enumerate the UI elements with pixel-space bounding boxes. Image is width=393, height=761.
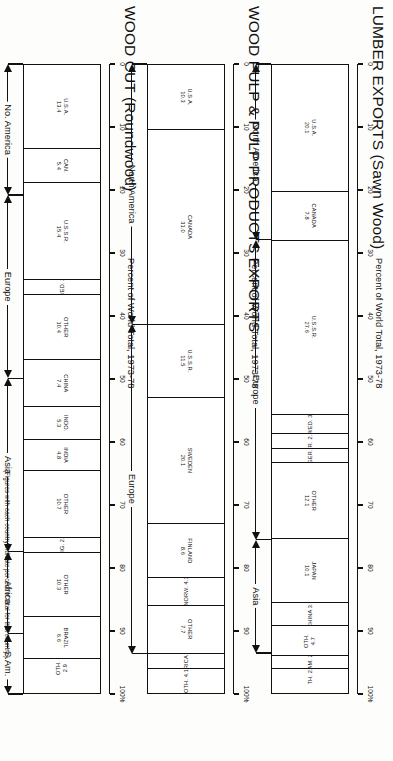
bar-segment: OTHER10.7 — [24, 471, 100, 538]
axis-tick — [110, 189, 115, 190]
bar-segment-label: OTHER10.3 — [55, 574, 68, 594]
region-connector — [8, 693, 23, 694]
bar-segment-label: CAN.5.4 — [55, 159, 68, 173]
axis-tick — [110, 126, 115, 127]
region-span: No. America — [0, 64, 21, 195]
axis-tick — [110, 504, 115, 505]
region-connector — [8, 378, 23, 379]
arrow-left-icon — [4, 64, 12, 72]
axis-tick-label: 20 — [119, 174, 126, 206]
region-label: Europe — [3, 269, 13, 305]
region-connector — [8, 194, 23, 195]
arrow-left-icon — [4, 195, 12, 203]
axis-tick-label: 0 — [119, 48, 126, 80]
bar-segment: CAN.5.4 — [24, 149, 100, 183]
chart-title: WOOD CUT (Roundwood) — [121, 6, 139, 191]
axis-tick-label: 100% — [119, 678, 126, 710]
region-label: No. America — [3, 101, 13, 158]
bar-segment: NIG. 2.3 — [24, 538, 100, 552]
axis-tick-label: 60 — [119, 426, 126, 458]
axis-tick-label: 90 — [119, 615, 126, 647]
axis-tick — [110, 693, 115, 694]
bar-segment: INDO.5.3 — [24, 407, 100, 440]
region-span: Europe — [0, 195, 21, 378]
bar-segment-label: OTH.2.9 — [55, 661, 68, 675]
axis-tick — [110, 63, 115, 64]
bar-segment: U.S.S.R.15.4 — [24, 183, 100, 280]
axis-tick — [110, 630, 115, 631]
axis-tick — [110, 315, 115, 316]
bar-segment: U.S.A.13.4 — [24, 65, 100, 149]
axis-tick-label: 50 — [119, 363, 126, 395]
bar-segment: OTH.2.9 — [24, 659, 100, 677]
bar-segment: OTHER10.4 — [24, 295, 100, 361]
arrow-left-icon — [4, 378, 12, 386]
bar-segment: OTHER10.3 — [24, 553, 100, 618]
axis-tick-label: 70 — [119, 489, 126, 521]
figure-sheet: LUMBER EXPORTS (Sawn Wood)Percent of Wor… — [0, 0, 393, 761]
axis-tick — [110, 252, 115, 253]
chart-panel-3: WOOD CUT (Roundwood)Percent of World Tot… — [0, 0, 393, 761]
axis-title: Percent of World Total, 1973-78 — [126, 258, 136, 388]
axis-tick — [110, 378, 115, 379]
axis-tick-label: 40 — [119, 300, 126, 332]
bar-segment-label: U.S.S.R.15.4 — [55, 220, 68, 243]
bar-segment-label: U.S.A.13.4 — [55, 98, 68, 115]
bar-segment-label: BRAZIL6.6 — [55, 628, 68, 648]
bar-segment-label: OTHER10.7 — [55, 494, 68, 514]
axis-tick-label: 10 — [119, 111, 126, 143]
bar-segment: INDIA4.8 — [24, 440, 100, 470]
axis-tick — [110, 441, 115, 442]
bar-segment: CHINA7.4 — [24, 360, 100, 407]
bar-segment-label: INDIA4.8 — [55, 447, 68, 463]
rotated-page-stage: LUMBER EXPORTS (Sawn Wood)Percent of Wor… — [0, 0, 393, 761]
axis-tick — [110, 567, 115, 568]
bar-segment-label: SWED. 2.3 — [59, 280, 66, 294]
bar-segment-label: NIG. 2.3 — [59, 538, 66, 552]
region-connector — [8, 63, 23, 64]
bar-segment: BRAZIL6.6 — [24, 618, 100, 660]
axis-tick-label: 80 — [119, 552, 126, 584]
bar-segment: SWED. 2.3 — [24, 280, 100, 294]
bar-segment-label: CHINA7.4 — [55, 374, 68, 392]
figure-footnote: (Figures with each country indicate perc… — [4, 470, 11, 658]
bar-segment-label: OTHER10.4 — [55, 317, 68, 337]
axis-tick-label: 30 — [119, 237, 126, 269]
bar-segment-label: INDO.5.3 — [55, 415, 68, 431]
stacked-bar: U.S.A.13.4CAN.5.4U.S.S.R.15.4SWED. 2.3OT… — [23, 64, 101, 694]
